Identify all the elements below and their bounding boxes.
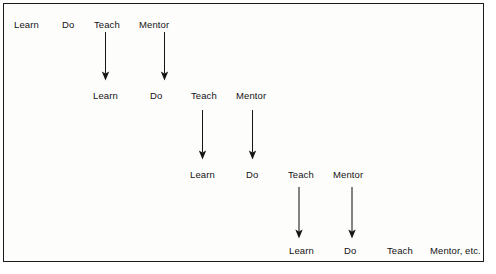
diagram-frame xyxy=(3,3,484,262)
node-row1-teach: Teach xyxy=(94,19,120,30)
node-row1-do: Do xyxy=(62,19,74,30)
node-row2-mentor: Mentor xyxy=(236,90,266,101)
node-row2-learn: Learn xyxy=(93,90,118,101)
node-row3-teach: Teach xyxy=(288,169,314,180)
node-row1-learn: Learn xyxy=(14,19,39,30)
node-row4-teach: Teach xyxy=(387,245,413,256)
node-row2-do: Do xyxy=(150,90,162,101)
node-row1-mentor: Mentor xyxy=(139,19,169,30)
diagram-canvas: Learn Do Teach Mentor Learn Do Teach Men… xyxy=(0,0,496,274)
node-row3-mentor: Mentor xyxy=(333,169,363,180)
node-row4-do: Do xyxy=(344,245,356,256)
node-row2-teach: Teach xyxy=(191,90,217,101)
node-row4-mentor-etc: Mentor, etc. xyxy=(430,245,481,256)
node-row3-learn: Learn xyxy=(190,169,215,180)
node-row3-do: Do xyxy=(246,169,258,180)
node-row4-learn: Learn xyxy=(289,245,314,256)
